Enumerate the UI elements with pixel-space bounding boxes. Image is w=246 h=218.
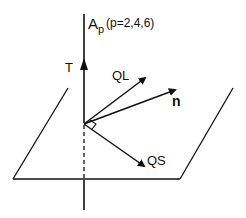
n-label: n xyxy=(172,93,181,109)
plane xyxy=(13,88,233,179)
ql-label: QL xyxy=(112,68,129,83)
t-arrowhead xyxy=(80,58,88,70)
ql-vector xyxy=(84,78,145,124)
axis-label-sub: p xyxy=(98,23,104,35)
axis-label-a: A xyxy=(88,15,98,32)
axis-label-params: (p=2,4,6) xyxy=(106,16,154,30)
t-label: T xyxy=(65,60,73,75)
qs-label: QS xyxy=(147,153,166,168)
n-vector xyxy=(84,90,175,124)
vector-diagram: A p (p=2,4,6) T QL n QS xyxy=(0,0,246,218)
qs-vector xyxy=(84,124,144,166)
